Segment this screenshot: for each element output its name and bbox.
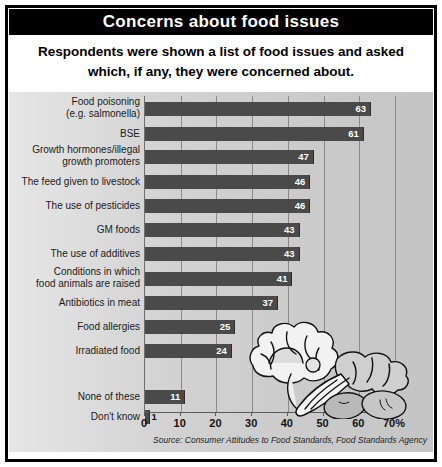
subtitle-line-1: Respondents were shown a list of food is… (18, 42, 424, 62)
category-label-line: Irradiated food (12, 345, 140, 357)
x-axis-tick (180, 412, 181, 416)
bar-value-label: 46 (295, 201, 306, 211)
x-axis-tick-label: 70% (383, 417, 405, 429)
x-axis-tick-label: 10 (174, 417, 186, 429)
bar-row: 37 (145, 296, 395, 310)
bar-value-label: 41 (277, 274, 288, 284)
x-axis-tick (144, 412, 145, 416)
category-label: None of these (12, 391, 140, 403)
bar-row: 46 (145, 175, 395, 189)
category-label-line: food animals are raised (12, 278, 140, 290)
category-label-line: BSE (12, 128, 140, 140)
bar: 63 (145, 102, 371, 116)
title-bar: Concerns about food issues (9, 9, 433, 35)
x-axis-tick (394, 412, 395, 416)
category-label-line: Growth hormones/illegal (12, 144, 140, 156)
bar-row: 24 (145, 344, 395, 358)
bar: 43 (145, 247, 300, 261)
category-label-line: Food poisoning (12, 96, 140, 108)
bar-value-label: 11 (170, 392, 180, 402)
bar: 47 (145, 150, 314, 164)
x-axis-tick-label: 40 (281, 417, 293, 429)
bar-value-label: 61 (348, 129, 359, 139)
bar-value-label: 43 (284, 249, 295, 259)
bar: 41 (145, 272, 292, 286)
bar-row: 43 (145, 247, 395, 261)
category-label: The use of additives (12, 248, 140, 260)
bar-row: 61 (145, 127, 395, 141)
subtitle: Respondents were shown a list of food is… (18, 42, 424, 81)
figure-root: Concerns about food issues Respondents w… (0, 0, 442, 467)
category-label: Don't know (12, 411, 140, 423)
category-label: GM foods (12, 224, 140, 236)
x-axis-tick (251, 412, 252, 416)
x-axis-tick-label: 30 (245, 417, 257, 429)
chart-panel: Food poisoning(e.g. salmonella)BSEGrowth… (9, 92, 433, 452)
bar-value-label: 1 (152, 412, 157, 422)
category-label-line: None of these (12, 391, 140, 403)
subtitle-line-2: which, if any, they were concerned about… (18, 62, 424, 82)
bar-value-label: 47 (298, 152, 309, 162)
bar: 46 (145, 175, 310, 189)
x-axis-tick (358, 412, 359, 416)
bar-row: 46 (145, 199, 395, 213)
bar-value-label: 46 (295, 177, 306, 187)
x-axis-tick-label: 60 (352, 417, 364, 429)
bar-value-label: 24 (216, 346, 227, 356)
plot-area: 6361474646434341372524111 (144, 96, 395, 412)
bar: 24 (145, 344, 232, 358)
category-label: Food poisoning(e.g. salmonella) (12, 96, 140, 119)
gridline (395, 96, 396, 412)
bar: 37 (145, 296, 278, 310)
category-label-line: Antibiotics in meat (12, 297, 140, 309)
category-label-line: Food allergies (12, 321, 140, 333)
category-label: Food allergies (12, 321, 140, 333)
category-label: The use of pesticides (12, 200, 140, 212)
x-axis-tick-label: 0 (141, 417, 147, 429)
category-label-line: The use of additives (12, 248, 140, 260)
bar-row: 41 (145, 272, 395, 286)
bar-row: 47 (145, 150, 395, 164)
bar: 46 (145, 199, 310, 213)
x-axis-tick-label: 20 (209, 417, 221, 429)
x-axis-tick-label: 50 (316, 417, 328, 429)
category-label-line: The use of pesticides (12, 200, 140, 212)
x-axis-tick (215, 412, 216, 416)
x-axis-tick (287, 412, 288, 416)
bar: 61 (145, 127, 364, 141)
bar-row: 25 (145, 320, 395, 334)
source-note: Source: Consumer Attitudes to Food Stand… (153, 435, 427, 445)
x-axis-tick (323, 412, 324, 416)
category-label: Irradiated food (12, 345, 140, 357)
category-label-line: The feed given to livestock (12, 176, 140, 188)
category-label-line: growth promoters (12, 156, 140, 168)
bar-value-label: 43 (284, 225, 295, 235)
category-label: Conditions in whichfood animals are rais… (12, 266, 140, 289)
bar-value-label: 63 (355, 104, 366, 114)
category-label-line: (e.g. salmonella) (12, 108, 140, 120)
bar: 25 (145, 320, 235, 334)
category-label: BSE (12, 128, 140, 140)
category-label: Growth hormones/illegalgrowth promoters (12, 144, 140, 167)
bar: 43 (145, 223, 300, 237)
page-title: Concerns about food issues (103, 12, 339, 32)
bar-value-label: 37 (263, 298, 274, 308)
category-label-line: Don't know (12, 411, 140, 423)
category-label: The feed given to livestock (12, 176, 140, 188)
bar-value-label: 25 (220, 322, 231, 332)
category-label: Antibiotics in meat (12, 297, 140, 309)
category-label-column: Food poisoning(e.g. salmonella)BSEGrowth… (9, 96, 140, 412)
category-label-line: Conditions in which (12, 266, 140, 278)
bar-row: 63 (145, 102, 395, 116)
bar: 11 (145, 390, 185, 404)
bar-row: 43 (145, 223, 395, 237)
bar-row: 11 (145, 390, 395, 404)
category-label-line: GM foods (12, 224, 140, 236)
